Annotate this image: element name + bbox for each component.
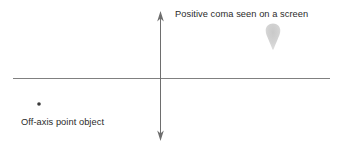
coma-label: Positive coma seen on a screen	[175, 9, 308, 20]
off-axis-point-object-label: Off-axis point object	[21, 117, 104, 128]
coma-aberration-figure: Positive coma seen on a screen Off-axis …	[0, 0, 342, 148]
off-axis-point-object-dot	[37, 102, 41, 106]
positive-coma-blob	[266, 24, 281, 50]
